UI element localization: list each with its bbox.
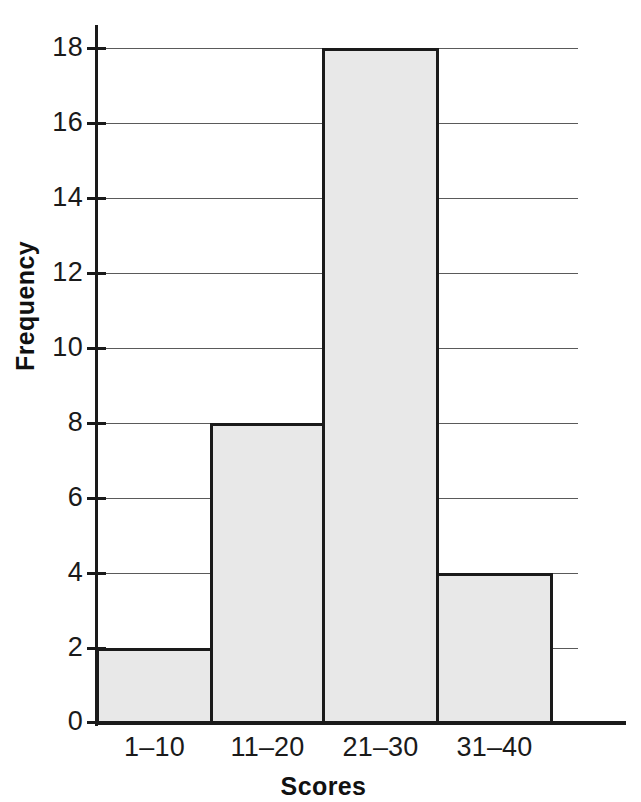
y-axis-line — [95, 25, 98, 726]
y-tick-label-10: 10 — [43, 334, 83, 361]
x-axis-title: Scores — [95, 772, 552, 800]
x-tick-label-21-30: 21–30 — [322, 731, 439, 763]
y-tick-label-16: 16 — [43, 109, 83, 136]
histogram-figure: 18 16 14 12 10 8 6 4 2 0 1–10 11–20 — [0, 0, 641, 802]
y-tick-label-2: 2 — [43, 634, 83, 661]
y-tick-mark-14 — [87, 197, 106, 200]
y-axis-title: Frequency — [11, 206, 39, 406]
y-tick-label-4: 4 — [43, 559, 83, 586]
y-tick-mark-4 — [87, 572, 106, 575]
y-tick-label-14: 14 — [43, 184, 83, 211]
y-tick-mark-6 — [87, 497, 106, 500]
y-tick-mark-16 — [87, 122, 106, 125]
y-tick-label-6: 6 — [43, 484, 83, 511]
y-tick-mark-18 — [87, 47, 106, 50]
plot-area: 18 16 14 12 10 8 6 4 2 0 1–10 11–20 — [0, 0, 641, 802]
bar-1-10 — [96, 648, 213, 724]
bar-31-40 — [436, 573, 553, 724]
y-tick-mark-12 — [87, 272, 106, 275]
bar-11-20 — [210, 423, 325, 724]
y-tick-mark-0 — [87, 721, 99, 724]
y-tick-label-8: 8 — [43, 409, 83, 436]
x-tick-label-11-20: 11–20 — [210, 731, 325, 763]
y-tick-mark-8 — [87, 422, 106, 425]
x-axis-line — [95, 721, 626, 725]
bar-21-30 — [322, 48, 439, 724]
x-tick-label-31-40: 31–40 — [436, 731, 553, 763]
y-tick-label-0: 0 — [43, 708, 83, 735]
x-tick-label-1-10: 1–10 — [96, 731, 213, 763]
y-tick-label-18: 18 — [43, 34, 83, 61]
y-tick-mark-2 — [87, 647, 106, 650]
y-tick-label-12: 12 — [43, 259, 83, 286]
y-tick-mark-10 — [87, 347, 106, 350]
